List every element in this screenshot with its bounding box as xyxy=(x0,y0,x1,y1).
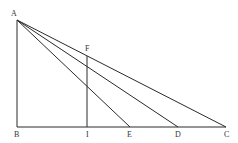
label-B: B xyxy=(14,130,19,139)
segment-AE xyxy=(17,20,130,127)
geometry-diagram: A F B I E D C xyxy=(0,0,238,143)
label-I: I xyxy=(86,130,89,139)
label-A: A xyxy=(11,9,17,18)
segment-AD xyxy=(17,20,178,127)
label-C: C xyxy=(224,130,229,139)
segment-AC xyxy=(17,20,226,127)
label-E: E xyxy=(127,130,132,139)
label-D: D xyxy=(175,130,181,139)
label-F: F xyxy=(85,44,90,53)
